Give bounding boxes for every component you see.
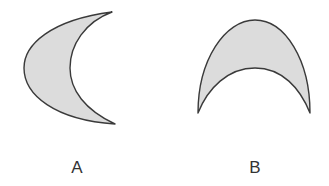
crescent-shape-a	[24, 12, 115, 124]
label-a: A	[71, 159, 82, 176]
crescent-shape-b	[198, 20, 310, 113]
diagram-canvas	[0, 0, 329, 186]
label-b: B	[249, 159, 260, 176]
